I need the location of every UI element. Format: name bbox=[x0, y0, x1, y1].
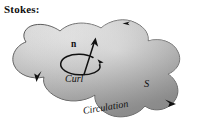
page-title: Stokes: bbox=[4, 4, 40, 15]
normal-vector-label: n bbox=[71, 40, 76, 50]
surface-label: S bbox=[144, 79, 149, 90]
curl-label: Curl bbox=[65, 74, 83, 84]
stokes-theorem-figure: Stokes: n Curl S Circulation bbox=[0, 0, 197, 126]
